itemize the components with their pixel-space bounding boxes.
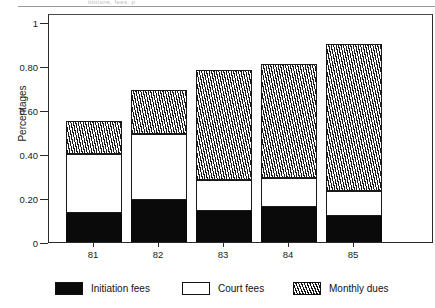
x-tick-85 <box>353 243 354 247</box>
bar-segment-82-initiation-fees <box>131 200 187 242</box>
x-tick-84 <box>288 243 289 247</box>
x-tick-label-82: 82 <box>130 249 186 260</box>
bar-segment-84-initiation-fees <box>261 207 317 242</box>
bar-segment-81-court-fees <box>66 154 122 213</box>
x-tick-82 <box>158 243 159 247</box>
legend-label-initiation-fees: Initiation fees <box>91 283 150 294</box>
legend-item-initiation-fees: Initiation fees <box>55 278 150 298</box>
y-tick-label-1: 1 <box>4 18 38 29</box>
top-rule <box>18 6 435 7</box>
x-tick-label-83: 83 <box>195 249 251 260</box>
bar-segment-84-court-fees <box>261 178 317 207</box>
y-tick-040 <box>40 155 48 156</box>
x-tick-label-85: 85 <box>325 249 381 260</box>
bar-segment-85-court-fees <box>326 191 382 215</box>
x-tick-label-84: 84 <box>260 249 316 260</box>
legend: Initiation fees Court fees Monthly dues <box>0 278 435 302</box>
legend-swatch-hatch-icon <box>293 282 321 295</box>
bar-segment-84-monthly-dues <box>261 64 317 178</box>
bar-segment-82-monthly-dues <box>131 90 187 134</box>
x-tick-81 <box>93 243 94 247</box>
bar-segment-81-initiation-fees <box>66 213 122 242</box>
x-tick-label-81: 81 <box>65 249 121 260</box>
y-tick-1 <box>40 23 48 24</box>
figure: tititions, fees, p 1 0.80 0.60 0.40 0.20… <box>0 0 435 308</box>
y-tick-label-020: 0.20 <box>4 194 38 205</box>
caption-fragment: tititions, fees, p <box>88 0 208 5</box>
y-axis-title: Percentages <box>17 68 28 160</box>
legend-label-court-fees: Court fees <box>218 283 264 294</box>
legend-swatch-white-icon <box>182 282 210 295</box>
bar-segment-83-court-fees <box>196 180 252 211</box>
legend-swatch-black-icon <box>55 282 83 295</box>
y-tick-0 <box>40 243 48 244</box>
y-tick-020 <box>40 199 48 200</box>
bar-segment-82-court-fees <box>131 134 187 200</box>
bar-segment-85-monthly-dues <box>326 44 382 191</box>
y-tick-080 <box>40 67 48 68</box>
legend-item-monthly-dues: Monthly dues <box>293 278 388 298</box>
x-tick-83 <box>223 243 224 247</box>
y-tick-060 <box>40 111 48 112</box>
legend-label-monthly-dues: Monthly dues <box>329 283 388 294</box>
plot-area <box>48 14 433 243</box>
bar-segment-83-monthly-dues <box>196 70 252 180</box>
legend-item-court-fees: Court fees <box>182 278 264 298</box>
bar-segment-81-monthly-dues <box>66 121 122 154</box>
bar-segment-83-initiation-fees <box>196 211 252 242</box>
bar-segment-85-initiation-fees <box>326 216 382 242</box>
y-tick-label-0: 0 <box>4 238 38 249</box>
